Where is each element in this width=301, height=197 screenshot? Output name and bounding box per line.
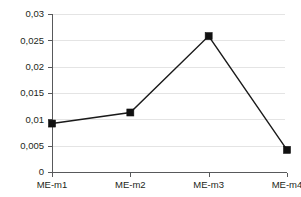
data-point-ME-m2 [127, 109, 134, 116]
gridlines [52, 15, 285, 147]
y-tick-label-4: 0,02 [26, 61, 45, 72]
y-tick-label-1: 0,005 [20, 140, 44, 151]
data-point-ME-m4 [284, 146, 291, 153]
line-chart: 00,0050,010,0150,020,0250,03 ME-m1ME-m2M… [0, 0, 301, 197]
y-tick-label-3: 0,015 [20, 87, 44, 98]
x-axis [52, 173, 288, 178]
y-tick-label-5: 0,025 [20, 35, 44, 46]
y-axis [48, 14, 53, 173]
data-point-ME-m3 [205, 33, 212, 40]
y-tick-label-2: 0,01 [26, 114, 45, 125]
x-tick-label-2: ME-m3 [193, 179, 224, 190]
data-point-ME-m1 [49, 120, 56, 127]
y-tick-label-6: 0,03 [26, 8, 45, 19]
x-tick-label-0: ME-m1 [37, 179, 68, 190]
x-tick-label-1: ME-m2 [115, 179, 146, 190]
y-axis-tick-labels: 00,0050,010,0150,020,0250,03 [20, 8, 44, 177]
x-axis-tick-labels: ME-m1ME-m2ME-m3ME-m4 [37, 179, 301, 190]
x-tick-label-3: ME-m4 [272, 179, 301, 190]
y-tick-label-0: 0 [39, 166, 44, 177]
chart-plot-area: 00,0050,010,0150,020,0250,03 ME-m1ME-m2M… [0, 0, 301, 197]
